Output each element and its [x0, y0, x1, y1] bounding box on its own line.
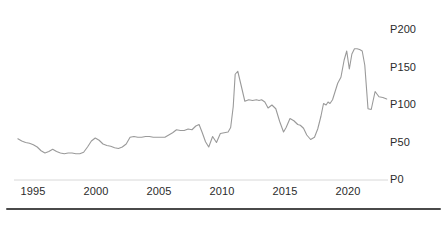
y-tick-label-200: P200 — [390, 24, 416, 35]
x-tick-label-2000: 2000 — [70, 186, 122, 197]
x-tick-label-2015: 2015 — [259, 186, 311, 197]
price-line — [18, 49, 387, 154]
y-tick-label-0: P0 — [390, 174, 404, 185]
x-tick-label-2020: 2020 — [322, 186, 374, 197]
y-tick-label-100: P100 — [390, 99, 416, 110]
footer-divider — [6, 208, 441, 210]
y-tick-label-50: P50 — [390, 137, 410, 148]
chart-container: P200 P150 P100 P50 P0 1995 2000 2005 201… — [0, 0, 445, 225]
x-tick-label-1995: 1995 — [7, 186, 59, 197]
x-tick-label-2005: 2005 — [133, 186, 185, 197]
x-tick-label-2010: 2010 — [196, 186, 248, 197]
y-tick-label-150: P150 — [390, 62, 416, 73]
